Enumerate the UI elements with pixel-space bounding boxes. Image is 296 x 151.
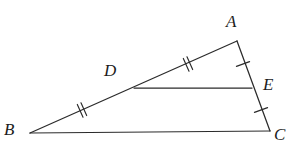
segment-AB xyxy=(30,41,237,133)
mark-AE-icon xyxy=(236,62,249,67)
vertex-label-A: A xyxy=(226,13,236,30)
vertex-label-C: C xyxy=(274,126,285,143)
segment-BC xyxy=(30,131,270,133)
segments-group xyxy=(30,41,270,133)
geometry-figure: ABCDE xyxy=(0,0,296,151)
mark-EC-icon xyxy=(254,108,267,113)
tick-stroke xyxy=(236,62,249,67)
vertex-label-D: D xyxy=(104,62,116,79)
vertex-label-B: B xyxy=(4,121,14,138)
vertex-label-E: E xyxy=(263,76,273,93)
figure-canvas xyxy=(0,0,296,151)
tick-stroke xyxy=(254,108,267,113)
